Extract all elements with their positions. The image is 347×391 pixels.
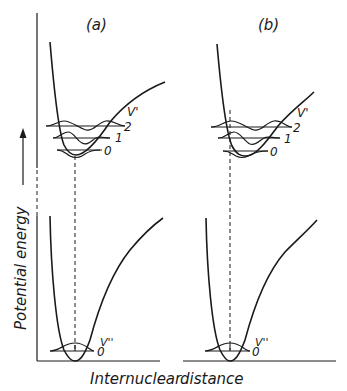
panel-b: V' 2 1 0 V'' 0	[205, 44, 317, 361]
upper-wave-2-b	[211, 121, 292, 130]
upper-level-1-label-a: 1	[115, 131, 123, 145]
upper-level-2-label-b: 2	[293, 121, 301, 135]
lower-level-0-label-a: 0	[97, 345, 105, 359]
x-axis-label-left: Internuclear	[90, 370, 182, 388]
x-axis-label-right: distance	[180, 370, 244, 388]
upper-state-label-a: V'	[127, 105, 139, 119]
y-axis-arrow-icon	[20, 128, 27, 185]
upper-wave-0-a	[57, 150, 100, 158]
upper-state-label-b: V'	[297, 106, 309, 120]
upper-level-2-label-a: 2	[124, 120, 132, 134]
panel-b-label: (b)	[258, 16, 279, 34]
panel-a-label: (a)	[86, 16, 107, 34]
upper-level-0-label-a: 0	[104, 144, 112, 158]
y-axis-label: Potential energy	[12, 205, 30, 330]
upper-potential-curve-b	[217, 44, 314, 156]
lower-level-0-label-b: 0	[252, 345, 260, 359]
upper-level-0-label-b: 0	[270, 145, 278, 159]
upper-level-1-label-b: 1	[284, 132, 292, 146]
franck-condon-diagram: Potential energy Internuclear distance (…	[0, 0, 347, 391]
lower-wave-0-a	[50, 343, 94, 351]
y-axis-label-group: Potential energy	[12, 205, 30, 330]
panel-a: V' 2 1 0 V'' 0	[46, 42, 165, 361]
